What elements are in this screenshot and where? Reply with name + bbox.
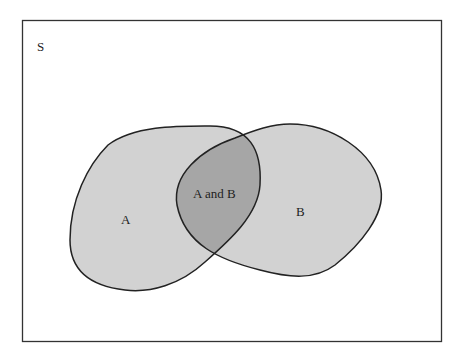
set-a-label: A (121, 212, 131, 227)
intersection-label: A and B (193, 186, 236, 201)
set-b-label: B (296, 204, 305, 219)
venn-diagram: S A B A and B (0, 0, 462, 361)
universe-label: S (37, 39, 44, 54)
